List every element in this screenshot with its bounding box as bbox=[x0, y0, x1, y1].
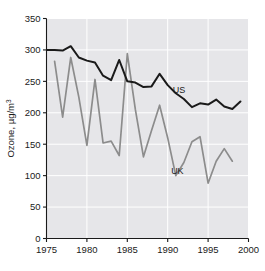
plot-background bbox=[47, 19, 249, 239]
x-tick-label: 1975 bbox=[36, 244, 57, 255]
y-axis-title-text: Ozone, µg/m3 bbox=[5, 99, 16, 158]
y-tick-label: 300 bbox=[25, 44, 41, 55]
x-tick-label: 2000 bbox=[238, 244, 259, 255]
series-label-uk: UK bbox=[171, 166, 184, 176]
y-tick-label: 200 bbox=[25, 107, 41, 118]
x-axis-ticks: 197519801985199019952000 bbox=[36, 239, 259, 255]
y-tick-label: 50 bbox=[30, 201, 41, 212]
series-label-us: US bbox=[173, 85, 186, 95]
y-tick-label: 150 bbox=[25, 139, 41, 150]
y-axis-title-exponent: 3 bbox=[5, 99, 12, 103]
y-tick-label: 250 bbox=[25, 76, 41, 87]
ozone-trend-chart-figure: 0501001502002503003501975198019851990199… bbox=[0, 0, 265, 271]
x-tick-label: 1990 bbox=[157, 244, 178, 255]
x-tick-label: 1980 bbox=[76, 244, 97, 255]
y-tick-label: 0 bbox=[35, 233, 40, 244]
y-axis-title: Ozone, µg/m3 bbox=[5, 99, 16, 158]
chart-canvas: 0501001502002503003501975198019851990199… bbox=[0, 0, 265, 271]
y-tick-label: 100 bbox=[25, 170, 41, 181]
y-tick-label: 350 bbox=[25, 13, 41, 24]
x-tick-label: 1995 bbox=[198, 244, 219, 255]
x-tick-label: 1985 bbox=[117, 244, 138, 255]
y-axis-ticks: 050100150200250300350 bbox=[25, 13, 47, 244]
